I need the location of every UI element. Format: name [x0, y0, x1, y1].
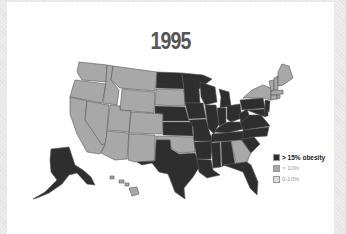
- legend-swatch-low: [273, 176, 280, 183]
- state-mi: [219, 89, 231, 108]
- state-ks: [163, 122, 193, 136]
- map-panel: 1995 > 15% obesity > 10% 0-10%: [7, 2, 334, 234]
- legend-swatch-mid: [273, 165, 280, 172]
- state-wa: [77, 62, 107, 82]
- state-me: [278, 64, 293, 86]
- state-ia: [185, 103, 206, 119]
- state-ak: [33, 147, 95, 199]
- state-co: [129, 112, 163, 134]
- state-ma: [271, 90, 283, 95]
- state-ms: [211, 142, 221, 168]
- state-nm: [128, 134, 155, 162]
- legend-label-mid: > 10%: [282, 165, 299, 171]
- state-hi: [110, 176, 139, 196]
- state-pa: [240, 98, 265, 110]
- legend-label-high: > 15% obesity: [282, 154, 325, 161]
- legend-label-low: 0-10%: [282, 176, 299, 182]
- legend-swatch-high: [273, 154, 280, 161]
- state-wi: [200, 82, 217, 105]
- state-nd: [156, 72, 184, 89]
- state-nh: [274, 76, 278, 90]
- us-obesity-map: [7, 2, 334, 234]
- state-wy: [120, 89, 155, 113]
- state-oh: [227, 104, 242, 122]
- state-ny: [243, 85, 271, 100]
- legend-item-low: 0-10%: [273, 174, 325, 184]
- state-fl: [223, 162, 258, 195]
- legend: > 15% obesity > 10% 0-10%: [273, 152, 325, 185]
- state-ct: [271, 95, 277, 100]
- state-sd: [155, 89, 185, 106]
- state-mt: [111, 66, 157, 91]
- legend-item-high: > 15% obesity: [273, 152, 325, 162]
- state-ar: [194, 141, 212, 159]
- state-ri: [277, 95, 280, 99]
- legend-item-mid: > 10%: [273, 163, 325, 173]
